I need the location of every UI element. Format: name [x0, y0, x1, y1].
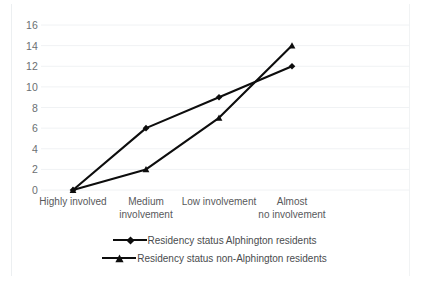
diamond-marker-icon [113, 234, 147, 246]
x-axis: Highly involvedMedium involvementLow inv… [0, 196, 429, 230]
series-line [73, 46, 292, 190]
triangle-marker-icon [102, 252, 136, 264]
chart-legend: Residency status Alphington residents Re… [0, 231, 429, 267]
legend-item[interactable]: Residency status Alphington residents [0, 231, 429, 249]
diamond-marker-icon [289, 63, 296, 70]
x-tick-label: Almost no involvement [249, 196, 335, 221]
legend-item[interactable]: Residency status non-Alphington resident… [0, 249, 429, 267]
series-line [73, 66, 292, 190]
legend-label: Residency status Alphington residents [147, 235, 317, 246]
line-chart: 0246810121416 Highly involvedMedium invo… [0, 0, 429, 285]
diamond-marker-icon [216, 94, 223, 101]
triangle-marker-icon [289, 42, 296, 48]
legend-label: Residency status non-Alphington resident… [136, 253, 327, 264]
